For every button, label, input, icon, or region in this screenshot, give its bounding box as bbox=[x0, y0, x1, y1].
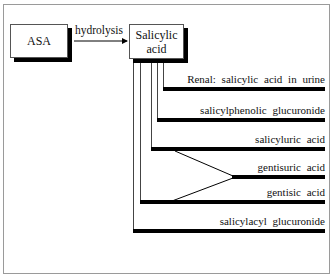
pathway-bar-renal bbox=[163, 87, 325, 91]
pathway-label-gentisuric-acid: gentisuric acid bbox=[258, 161, 325, 173]
pathway-label-renal: Renal: salicylic acid in urine bbox=[187, 73, 325, 85]
pathway-bar-gentisuric-acid bbox=[232, 175, 325, 179]
salicylic-acid-label-line2: acid bbox=[136, 42, 178, 56]
salicylic-acid-box: Salicylic acid bbox=[129, 24, 184, 59]
pathway-label-salicylphenolic-glucuronide: salicylphenolic glucuronide bbox=[200, 104, 325, 116]
pathway-bar-gentisic-acid bbox=[140, 200, 325, 204]
pathway-label-salicyluric-acid: salicyluric acid bbox=[255, 133, 325, 145]
salicylic-acid-label-line1: Salicylic bbox=[136, 28, 178, 42]
pathway-bar-salicyluric-acid bbox=[151, 147, 325, 151]
pathway-label-gentisic-acid: gentisic acid bbox=[267, 186, 325, 198]
pathway-bar-salicylacyl-glucuronide bbox=[133, 229, 325, 233]
pathway-bar-salicylphenolic-glucuronide bbox=[157, 118, 325, 122]
pathway-label-salicylacyl-glucuronide: salicylacyl glucuronide bbox=[220, 215, 325, 227]
